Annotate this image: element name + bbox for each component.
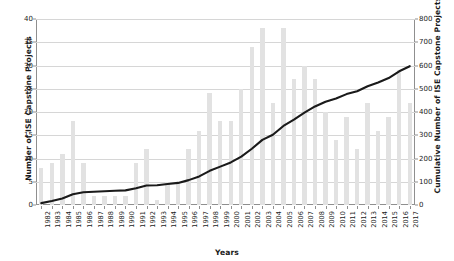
x-tick-mark	[104, 206, 105, 209]
y-tick-label-left: 35	[24, 38, 33, 46]
x-tick-mark	[52, 206, 53, 209]
y-tick-mark-right	[415, 181, 418, 182]
x-tick-mark	[220, 206, 221, 209]
x-tick-mark	[283, 206, 284, 209]
x-tick-label: 1990	[128, 211, 136, 228]
x-tick-label: 2011	[349, 211, 357, 228]
cumulative-line	[41, 66, 409, 203]
x-tick-mark	[83, 206, 84, 209]
x-tick-label: 1999	[223, 211, 231, 228]
x-tick-mark	[347, 206, 348, 209]
x-tick-label: 2000	[233, 211, 241, 228]
y-tick-mark-right	[415, 135, 418, 136]
x-tick-label: 1984	[65, 211, 73, 228]
x-tick-mark	[389, 206, 390, 209]
x-tick-label: 2015	[391, 211, 399, 228]
x-tick-mark	[147, 206, 148, 209]
x-tick-label: 1982	[44, 211, 52, 228]
x-tick-label: 1992	[149, 211, 157, 228]
x-tick-label: 2001	[244, 211, 252, 228]
x-tick-label: 1997	[202, 211, 210, 228]
x-tick-mark	[62, 206, 63, 209]
x-tick-label: 2013	[370, 211, 378, 228]
x-tick-label: 2012	[360, 211, 368, 228]
y-tick-label-left: 30	[24, 62, 33, 70]
x-tick-mark	[73, 206, 74, 209]
x-tick-mark	[378, 206, 379, 209]
x-tick-mark	[304, 206, 305, 209]
x-tick-label: 1994	[170, 211, 178, 228]
x-tick-label: 2008	[318, 211, 326, 228]
y-tick-mark-right	[415, 88, 418, 89]
x-tick-label: 1995	[181, 211, 189, 228]
x-tick-mark	[210, 206, 211, 209]
x-tick-mark	[157, 206, 158, 209]
x-tick-label: 1993	[160, 211, 168, 228]
x-tick-mark	[115, 206, 116, 209]
x-tick-mark	[399, 206, 400, 209]
x-tick-label: 2007	[307, 211, 315, 228]
y-tick-label-left: 20	[24, 108, 33, 116]
x-axis-label: Years	[0, 248, 454, 257]
y-tick-label-left: 10	[24, 155, 33, 163]
x-tick-mark	[178, 206, 179, 209]
y-tick-label-left: 15	[24, 131, 33, 139]
x-tick-mark	[199, 206, 200, 209]
x-tick-label: 2006	[297, 211, 305, 228]
y-tick-label-right: 400	[419, 108, 432, 116]
x-tick-mark	[326, 206, 327, 209]
y-tick-mark-right	[415, 158, 418, 159]
x-tick-mark	[231, 206, 232, 209]
x-tick-mark	[315, 206, 316, 209]
x-tick-mark	[189, 206, 190, 209]
y-tick-mark-right	[415, 42, 418, 43]
x-tick-mark	[94, 206, 95, 209]
x-tick-label: 1988	[107, 211, 115, 228]
y-tick-label-left: 0	[29, 201, 33, 209]
y-tick-mark-right	[415, 205, 418, 206]
x-tick-label: 2010	[339, 211, 347, 228]
y-tick-label-right: 800	[419, 15, 432, 23]
x-tick-mark	[168, 206, 169, 209]
x-tick-label: 2014	[381, 211, 389, 228]
y-tick-mark-right	[415, 65, 418, 66]
x-tick-mark	[410, 206, 411, 209]
x-tick-mark	[41, 206, 42, 209]
x-tick-mark	[273, 206, 274, 209]
x-tick-label: 1983	[54, 211, 62, 228]
chart-container: Number of ISE Capstone Projects Cumulati…	[0, 0, 454, 261]
y-axis-label-right: Cumulative Number of ISE Capstone Projec…	[433, 24, 442, 194]
x-tick-label: 1998	[212, 211, 220, 228]
y-tick-mark-right	[415, 19, 418, 20]
x-tick-label: 2003	[265, 211, 273, 228]
x-tick-label: 2005	[286, 211, 294, 228]
y-tick-label-right: 100	[419, 178, 432, 186]
y-tick-mark-right	[415, 112, 418, 113]
y-tick-label-left: 25	[24, 85, 33, 93]
y-tick-label-right: 700	[419, 38, 432, 46]
x-tick-mark	[368, 206, 369, 209]
x-tick-mark	[294, 206, 295, 209]
x-tick-label: 2016	[402, 211, 410, 228]
x-axis-ticks: 1982198319841985198619871988198919901991…	[36, 206, 415, 246]
y-tick-label-right: 300	[419, 131, 432, 139]
y-tick-label-right: 0	[419, 201, 423, 209]
x-tick-mark	[336, 206, 337, 209]
x-tick-label: 1985	[75, 211, 83, 228]
x-tick-label: 1991	[139, 211, 147, 228]
cumulative-line-series	[36, 19, 415, 205]
y-tick-label-right: 500	[419, 85, 432, 93]
x-tick-label: 1989	[118, 211, 126, 228]
x-tick-label: 2002	[254, 211, 262, 228]
x-tick-label: 2009	[328, 211, 336, 228]
x-tick-label: 1996	[191, 211, 199, 228]
y-tick-label-right: 200	[419, 155, 432, 163]
x-tick-label: 2017	[412, 211, 420, 228]
y-tick-label-left: 5	[29, 178, 33, 186]
x-tick-mark	[262, 206, 263, 209]
x-tick-mark	[136, 206, 137, 209]
x-tick-label: 2004	[275, 211, 283, 228]
x-tick-mark	[357, 206, 358, 209]
y-tick-label-left: 40	[24, 15, 33, 23]
x-tick-mark	[252, 206, 253, 209]
